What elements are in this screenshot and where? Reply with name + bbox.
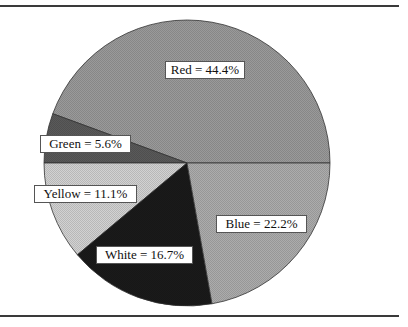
pie-chart <box>0 0 408 327</box>
label-white: White = 16.7% <box>96 246 193 264</box>
label-green: Green = 5.6% <box>40 135 131 153</box>
bottom-rule <box>0 315 399 317</box>
label-yellow: Yellow = 11.1% <box>34 185 137 203</box>
slice-texture-blue <box>187 163 330 304</box>
label-blue: Blue = 22.2% <box>216 215 307 233</box>
label-red: Red = 44.4% <box>165 61 245 79</box>
